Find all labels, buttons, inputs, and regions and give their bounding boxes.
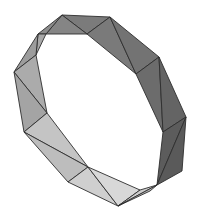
polygonal-ring-illustration xyxy=(0,0,202,223)
ring-render: triangulated polygonal ring xyxy=(0,0,202,223)
